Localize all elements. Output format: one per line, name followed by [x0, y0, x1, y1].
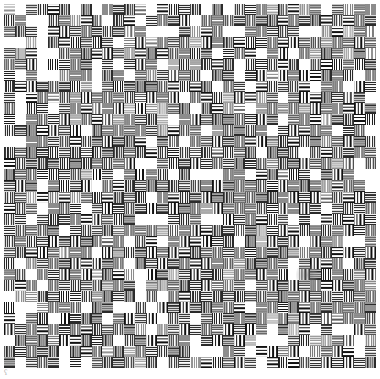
pattern-cell: [332, 180, 343, 191]
pattern-cell: [4, 92, 15, 103]
pattern-cell: [124, 37, 135, 48]
pattern-cell: [332, 147, 343, 158]
pattern-cell: [102, 136, 113, 147]
pattern-cell: [157, 92, 168, 103]
pattern-cell: [299, 48, 310, 59]
pattern-cell: [223, 192, 234, 203]
pattern-cell: [343, 324, 354, 335]
pattern-cell: [92, 313, 103, 324]
pattern-cell: [4, 291, 15, 302]
pattern-cell: [212, 92, 223, 103]
pattern-cell: [92, 125, 103, 136]
pattern-cell: [26, 269, 37, 280]
pattern-cell: [310, 4, 321, 15]
pattern-cell: [256, 346, 267, 357]
pattern-cell: [278, 313, 289, 324]
pattern-cell: [278, 48, 289, 59]
pattern-cell: [92, 48, 103, 59]
pattern-cell: [37, 4, 48, 15]
pattern-cell: [212, 225, 223, 236]
pattern-cell: [135, 48, 146, 59]
pattern-cell: [190, 346, 201, 357]
pattern-cell: [179, 169, 190, 180]
pattern-cell: [321, 147, 332, 158]
pattern-cell: [234, 247, 245, 258]
pattern-cell: [332, 236, 343, 247]
pattern-cell: [332, 291, 343, 302]
pattern-cell: [59, 302, 70, 313]
pattern-cell: [15, 92, 26, 103]
pattern-cell: [245, 92, 256, 103]
pattern-cell: [278, 92, 289, 103]
pattern-cell: [102, 269, 113, 280]
pattern-cell: [245, 280, 256, 291]
pattern-cell: [146, 214, 157, 225]
pattern-cell: [190, 357, 201, 368]
pattern-cell: [343, 26, 354, 37]
pattern-cell: [299, 180, 310, 191]
pattern-cell: [299, 26, 310, 37]
pattern-cell: [48, 136, 59, 147]
pattern-cell: [321, 158, 332, 169]
pattern-cell: [102, 203, 113, 214]
pattern-cell: [70, 203, 81, 214]
pattern-cell: [343, 357, 354, 368]
pattern-cell: [135, 258, 146, 269]
pattern-cell: [157, 214, 168, 225]
pattern-cell: [48, 203, 59, 214]
pattern-cell: [343, 192, 354, 203]
pattern-cell: [190, 26, 201, 37]
pattern-cell: [288, 48, 299, 59]
pattern-cell: [179, 291, 190, 302]
pattern-cell: [212, 291, 223, 302]
pattern-cell: [179, 203, 190, 214]
pattern-cell: [321, 269, 332, 280]
pattern-cell: [70, 4, 81, 15]
pattern-cell: [354, 114, 365, 125]
pattern-cell: [70, 280, 81, 291]
pattern-cell: [15, 147, 26, 158]
pattern-cell: [102, 70, 113, 81]
pattern-cell: [332, 225, 343, 236]
pattern-cell: [299, 114, 310, 125]
pattern-cell: [26, 247, 37, 258]
pattern-cell: [70, 236, 81, 247]
pattern-cell: [256, 258, 267, 269]
pattern-cell: [157, 103, 168, 114]
pattern-cell: [310, 192, 321, 203]
pattern-cell: [4, 147, 15, 158]
pattern-cell: [37, 81, 48, 92]
pattern-cell: [48, 59, 59, 70]
pattern-cell: [37, 103, 48, 114]
pattern-cell: [201, 258, 212, 269]
pattern-cell: [299, 15, 310, 26]
pattern-cell: [92, 335, 103, 346]
pattern-cell: [267, 26, 278, 37]
pattern-cell: [15, 324, 26, 335]
pattern-cell: [354, 4, 365, 15]
pattern-cell: [223, 4, 234, 15]
pattern-cell: [59, 180, 70, 191]
pattern-cell: [190, 37, 201, 48]
pattern-cell: [157, 203, 168, 214]
pattern-cell: [81, 147, 92, 158]
pattern-cell: [190, 136, 201, 147]
pattern-cell: [70, 81, 81, 92]
pattern-cell: [321, 26, 332, 37]
pattern-cell: [245, 70, 256, 81]
pattern-cell: [124, 225, 135, 236]
pattern-cell: [81, 324, 92, 335]
pattern-cell: [256, 180, 267, 191]
pattern-cell: [256, 37, 267, 48]
pattern-cell: [245, 147, 256, 158]
pattern-cell: [365, 125, 376, 136]
pattern-cell: [365, 302, 376, 313]
pattern-cell: [278, 192, 289, 203]
pattern-cell: [299, 346, 310, 357]
pattern-cell: [48, 70, 59, 81]
pattern-cell: [245, 247, 256, 258]
pattern-cell: [234, 37, 245, 48]
pattern-cell: [190, 147, 201, 158]
pattern-cell: [201, 37, 212, 48]
pattern-cell: [190, 59, 201, 70]
